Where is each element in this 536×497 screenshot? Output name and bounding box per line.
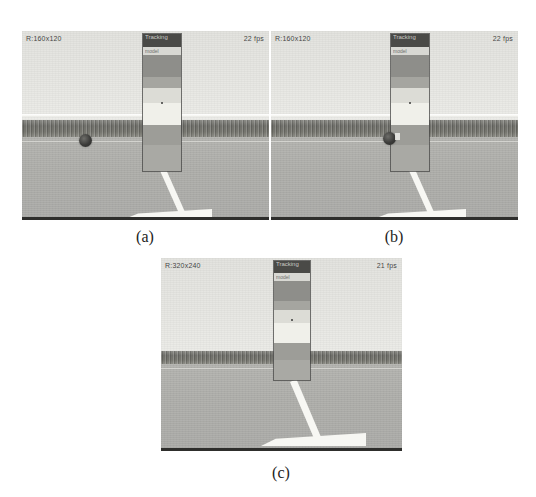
track-band-6-a — [143, 103, 181, 125]
frame-baseline-c — [161, 448, 402, 451]
track-band-5-b — [391, 88, 429, 103]
detected-blob-tag-b — [395, 133, 400, 140]
track-band-4-a — [143, 77, 181, 88]
tracking-centroid-dot-c — [291, 319, 293, 321]
track-band-7-c — [274, 343, 310, 360]
panel-a: R:160x120 22 fps Tracking model — [22, 31, 269, 220]
track-band-3-c — [274, 281, 310, 301]
hud-framerate-a: 22 fps — [244, 35, 264, 42]
tracking-centroid-dot-a — [161, 102, 163, 104]
tracking-window-sublabel-b: model — [393, 48, 407, 54]
tracking-window-label-b: Tracking — [393, 34, 416, 40]
track-band-4-c — [274, 301, 310, 310]
track-band-8-b — [391, 145, 429, 172]
hud-resolution-c: R:320x240 — [165, 262, 201, 269]
tracking-window-c[interactable]: Tracking model — [273, 260, 311, 381]
track-band-8-a — [143, 145, 181, 172]
frame-baseline-b — [271, 217, 518, 220]
caption-b: (b) — [369, 228, 419, 246]
hud-framerate-c: 21 fps — [377, 262, 397, 269]
tracking-window-label-c: Tracking — [276, 261, 299, 267]
frame-baseline-a — [22, 217, 269, 220]
track-band-3-a — [143, 55, 181, 77]
detected-blob-a — [79, 134, 92, 147]
tracking-window-b[interactable]: Tracking model — [390, 33, 430, 172]
hud-resolution-a: R:160x120 — [26, 35, 62, 42]
figure-container: R:160x120 22 fps Tracking model — [0, 0, 536, 497]
track-band-7-a — [143, 125, 181, 145]
hud-framerate-b: 22 fps — [493, 35, 513, 42]
panel-b: R:160x120 22 fps Tracking model — [271, 31, 518, 220]
tracking-window-sublabel-c: model — [276, 274, 290, 280]
track-band-6-b — [391, 103, 429, 125]
hud-resolution-b: R:160x120 — [275, 35, 311, 42]
track-band-5-a — [143, 88, 181, 103]
track-band-4-b — [391, 77, 429, 88]
panel-c: R:320x240 21 fps Tracking model — [161, 258, 402, 451]
tracking-window-label-a: Tracking — [145, 34, 168, 40]
caption-a: (a) — [120, 228, 170, 246]
track-band-8-c — [274, 360, 310, 381]
tracking-centroid-dot-b — [409, 102, 411, 104]
tracking-window-sublabel-a: model — [145, 48, 159, 54]
track-band-6-c — [274, 323, 310, 343]
track-band-5-c — [274, 310, 310, 323]
caption-c: (c) — [256, 464, 306, 482]
tracking-window-a[interactable]: Tracking model — [142, 33, 182, 172]
track-band-3-b — [391, 55, 429, 77]
